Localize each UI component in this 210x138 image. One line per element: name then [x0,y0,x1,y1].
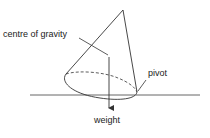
cone-left-side [66,10,123,74]
centre-of-gravity-label: centre of gravity [3,30,67,39]
centre-of-gravity-leader [79,38,108,55]
cone-base-back-arc [66,72,137,92]
weight-label: weight [94,116,120,125]
cone-right-side [123,10,137,92]
diagram-canvas: centre of gravity pivot weight [0,0,210,138]
pivot-leader [138,80,146,91]
pivot-label: pivot [148,69,167,78]
cone-base-front-arc [64,74,137,99]
